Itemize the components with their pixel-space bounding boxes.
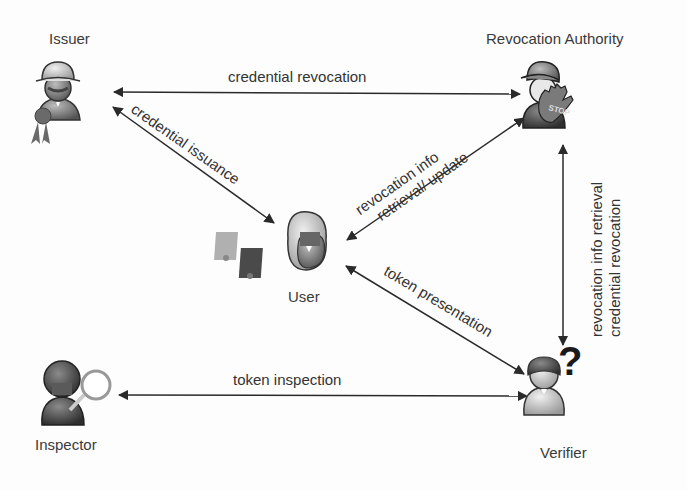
- issuer-label: Issuer: [49, 30, 90, 47]
- verifier-label: Verifier: [540, 444, 587, 461]
- edge-label-line2: credential revocation: [606, 182, 624, 337]
- inspector-label: Inspector: [35, 436, 97, 453]
- svg-text:?: ?: [558, 339, 582, 383]
- user-icon: [288, 212, 326, 270]
- verifier-question-icon: ?: [524, 339, 583, 415]
- credential-cards-icon: [214, 232, 263, 279]
- edge-label-line1: revocation info retrieval: [588, 182, 606, 337]
- inspector-magnifier-icon: [42, 361, 110, 425]
- revocation-authority-stop-icon: STOP: [521, 62, 573, 128]
- user-label: User: [288, 288, 320, 305]
- edge-credential-revocation: [114, 92, 520, 94]
- edge-credential-issuance: [113, 107, 274, 223]
- issuer-icon: [31, 62, 80, 144]
- edge-label-token-inspection: token inspection: [233, 371, 341, 388]
- edge-token-presentation: [346, 266, 524, 374]
- edge-token-inspection: [119, 395, 527, 396]
- edge-label-credential-revocation: credential revocation: [228, 68, 366, 85]
- edge-label-revocation-authority-verifier: revocation info retrieval credential rev…: [588, 182, 624, 337]
- revocation-authority-label: Revocation Authority: [486, 30, 624, 47]
